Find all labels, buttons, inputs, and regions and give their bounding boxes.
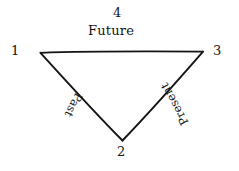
vertex-2-label: 2 (117, 145, 125, 158)
vertex-3-label: 3 (213, 44, 221, 57)
edge-top-line (41, 51, 204, 52)
edge-top-number-label: 4 (113, 6, 121, 19)
vertex-1-label: 1 (11, 44, 19, 57)
diagram-canvas: 1 3 2 4 Future Past Present (0, 0, 239, 171)
edge-future-label: Future (88, 24, 134, 37)
